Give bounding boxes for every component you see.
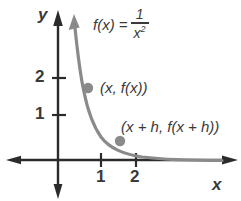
curve-arrow-up (69, 14, 80, 30)
function-graph-figure: y x 2 1 1 2 f(x) = 1 x2 (x, f(x)) (x + h… (0, 0, 241, 201)
tick-label-y-1: 1 (35, 105, 44, 122)
y-axis-arrow-up (53, 10, 63, 26)
x-axis-arrow-left (6, 156, 21, 164)
formula-denominator-base: x (134, 24, 141, 40)
formula-fraction: 1 x2 (131, 7, 149, 39)
function-formula: f(x) = 1 x2 (93, 8, 149, 40)
axis-label-x: x (212, 176, 221, 193)
formula-numerator: 1 (133, 7, 147, 22)
y-axis-arrow-down (54, 184, 63, 199)
tick-label-x-1: 1 (96, 168, 105, 185)
tick-label-y-2: 2 (35, 68, 44, 85)
function-curve (75, 28, 222, 161)
x-axis-arrow-right (222, 155, 238, 164)
formula-lhs: f(x) = (93, 17, 128, 32)
point-label-x: (x, f(x)) (100, 80, 147, 95)
tick-label-x-2: 2 (130, 168, 139, 185)
point-label-x-plus-h: (x + h, f(x + h)) (121, 119, 219, 134)
formula-denominator-exponent: 2 (141, 24, 146, 34)
axis-label-y: y (38, 6, 47, 23)
formula-denominator: x2 (131, 24, 149, 40)
point-x-dot (83, 83, 93, 93)
point-x-plus-h-dot (115, 136, 125, 146)
